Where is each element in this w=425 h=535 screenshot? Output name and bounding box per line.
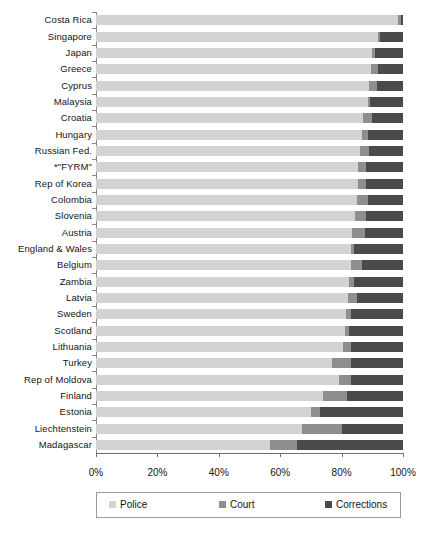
x-axis-line bbox=[96, 453, 404, 454]
y-axis-label: Belgium bbox=[0, 260, 92, 270]
bar-track bbox=[96, 179, 403, 189]
bar-track bbox=[96, 326, 403, 336]
bar-row bbox=[96, 211, 403, 221]
y-axis-label: Scotland bbox=[0, 326, 92, 336]
bar-segment-police bbox=[96, 97, 368, 107]
x-axis-tick bbox=[96, 453, 97, 457]
bar-segment-corrections bbox=[354, 244, 403, 254]
bar-track bbox=[96, 32, 403, 42]
bar-segment-police bbox=[96, 228, 352, 238]
bar-segment-corrections bbox=[351, 342, 403, 352]
y-axis-label: Finland bbox=[0, 391, 92, 401]
bar-track bbox=[96, 277, 403, 287]
bar-track bbox=[96, 375, 403, 385]
bar-segment-corrections bbox=[351, 375, 403, 385]
bar-segment-court bbox=[270, 440, 297, 450]
bar-segment-corrections bbox=[347, 391, 403, 401]
y-axis-label: Liechtenstein bbox=[0, 424, 92, 434]
bar-row bbox=[96, 113, 403, 123]
bar-segment-police bbox=[96, 64, 371, 74]
bar-row bbox=[96, 358, 403, 368]
legend-label: Corrections bbox=[336, 498, 387, 511]
y-axis-label: Lithuania bbox=[0, 342, 92, 352]
bar-row bbox=[96, 32, 403, 42]
bar-track bbox=[96, 146, 403, 156]
bar-segment-court bbox=[355, 211, 366, 221]
bar-segment-corrections bbox=[372, 113, 403, 123]
y-axis-label: Costa Rica bbox=[0, 15, 92, 25]
y-axis-label: Croatia bbox=[0, 113, 92, 123]
x-axis-label: 80% bbox=[332, 467, 352, 479]
bar-row bbox=[96, 48, 403, 58]
bar-segment-corrections bbox=[351, 358, 403, 368]
bar-segment-police bbox=[96, 424, 302, 434]
bar-segment-corrections bbox=[378, 64, 403, 74]
bar-row bbox=[96, 195, 403, 205]
bar-segment-police bbox=[96, 391, 323, 401]
bar-segment-police bbox=[96, 342, 343, 352]
bar-row bbox=[96, 146, 403, 156]
bar-track bbox=[96, 15, 403, 25]
bar-row bbox=[96, 407, 403, 417]
legend-item-corrections[interactable]: Corrections bbox=[325, 498, 387, 511]
bar-track bbox=[96, 228, 403, 238]
bar-segment-police bbox=[96, 244, 351, 254]
y-axis-label: Hungary bbox=[0, 130, 92, 140]
stacked-bar-chart: Costa RicaSingaporeJapanGreeceCyprusMala… bbox=[0, 0, 425, 535]
bar-row bbox=[96, 440, 403, 450]
bar-row bbox=[96, 81, 403, 91]
bar-segment-police bbox=[96, 162, 358, 172]
bar-segment-police bbox=[96, 81, 369, 91]
bar-segment-police bbox=[96, 113, 363, 123]
x-axis-tick bbox=[219, 453, 220, 457]
bar-segment-court bbox=[332, 358, 350, 368]
bar-segment-police bbox=[96, 48, 372, 58]
bar-segment-police bbox=[96, 195, 357, 205]
bar-segment-corrections bbox=[297, 440, 403, 450]
y-axis-label: Latvia bbox=[0, 293, 92, 303]
y-axis-label: Slovenia bbox=[0, 211, 92, 221]
legend-item-court[interactable]: Court bbox=[219, 498, 254, 511]
y-axis-label: Madagascar bbox=[0, 440, 92, 450]
bar-segment-police bbox=[96, 293, 348, 303]
bar-segment-corrections bbox=[349, 326, 403, 336]
y-axis-label: Sweden bbox=[0, 309, 92, 319]
bar-track bbox=[96, 440, 403, 450]
bar-row bbox=[96, 309, 403, 319]
x-axis-label: 100% bbox=[390, 467, 416, 479]
bar-segment-court bbox=[358, 179, 366, 189]
bar-row bbox=[96, 228, 403, 238]
bar-segment-court bbox=[302, 424, 342, 434]
bar-segment-court bbox=[311, 407, 320, 417]
bar-segment-police bbox=[96, 309, 346, 319]
legend-item-police[interactable]: Police bbox=[109, 498, 147, 511]
y-axis-label: Austria bbox=[0, 228, 92, 238]
y-axis-label: Rep of Moldova bbox=[0, 375, 92, 385]
legend-label: Court bbox=[230, 498, 254, 511]
bar-segment-corrections bbox=[380, 32, 403, 42]
bar-segment-corrections bbox=[366, 211, 403, 221]
bar-segment-court bbox=[351, 260, 362, 270]
bar-segment-corrections bbox=[366, 162, 403, 172]
bar-segment-police bbox=[96, 146, 360, 156]
bar-segment-corrections bbox=[377, 81, 403, 91]
bar-segment-corrections bbox=[354, 277, 403, 287]
x-axis-tick bbox=[280, 453, 281, 457]
bar-segment-police bbox=[96, 32, 378, 42]
bar-segment-court bbox=[339, 375, 351, 385]
bar-segment-corrections bbox=[366, 179, 403, 189]
bar-segment-corrections bbox=[369, 146, 403, 156]
bar-segment-police bbox=[96, 277, 349, 287]
x-axis-label: 40% bbox=[209, 467, 229, 479]
bar-track bbox=[96, 195, 403, 205]
bar-track bbox=[96, 211, 403, 221]
bar-segment-court bbox=[358, 162, 366, 172]
bar-row bbox=[96, 391, 403, 401]
y-axis-label: Rep of Korea bbox=[0, 179, 92, 189]
bar-row bbox=[96, 342, 403, 352]
y-axis-label: Malaysia bbox=[0, 97, 92, 107]
bar-segment-corrections bbox=[357, 293, 403, 303]
bar-segment-corrections bbox=[320, 407, 403, 417]
bar-track bbox=[96, 391, 403, 401]
bar-track bbox=[96, 97, 403, 107]
